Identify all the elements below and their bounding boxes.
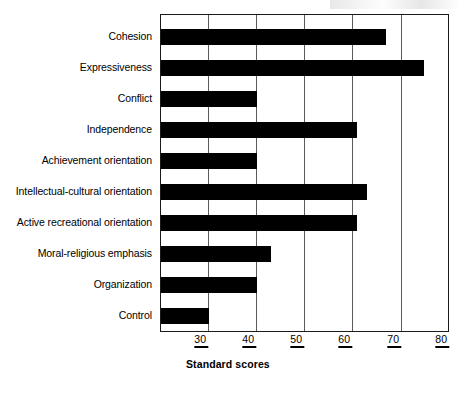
category-label: Cohesion bbox=[0, 30, 152, 42]
category-label: Organization bbox=[0, 278, 152, 290]
plot-area bbox=[160, 14, 449, 332]
bar-chart: Cohesion Expressiveness Conflict Indepen… bbox=[0, 0, 462, 394]
bar-moral-religious-emphasis bbox=[161, 246, 271, 262]
bar-independence bbox=[161, 122, 357, 138]
bar-cohesion bbox=[161, 29, 386, 45]
category-label: Moral-religious emphasis bbox=[0, 247, 152, 259]
category-axis-labels: Cohesion Expressiveness Conflict Indepen… bbox=[0, 14, 152, 332]
x-tick-label: 50 bbox=[290, 333, 304, 348]
category-label: Independence bbox=[0, 123, 152, 135]
bar-intellectual-cultural-orientation bbox=[161, 184, 367, 200]
x-tick-label: 30 bbox=[194, 333, 208, 348]
category-label: Active recreational orientation bbox=[0, 216, 152, 228]
bar-achievement-orientation bbox=[161, 153, 257, 169]
x-axis-tick-labels: 30 40 50 60 70 80 bbox=[160, 333, 452, 353]
category-label: Expressiveness bbox=[0, 61, 152, 73]
category-label: Conflict bbox=[0, 92, 152, 104]
x-tick-label: 80 bbox=[435, 333, 449, 348]
scan-artifact bbox=[330, 0, 460, 9]
bar-control bbox=[161, 308, 209, 324]
category-label: Achievement orientation bbox=[0, 154, 152, 166]
category-label: Intellectual-cultural orientation bbox=[0, 185, 152, 197]
bar-active-recreational-orientation bbox=[161, 215, 357, 231]
x-tick-label: 70 bbox=[387, 333, 401, 348]
category-label: Control bbox=[0, 309, 152, 321]
bar-expressiveness bbox=[161, 60, 424, 76]
x-tick-label: 40 bbox=[242, 333, 256, 348]
x-axis-title: Standard scores bbox=[186, 358, 270, 370]
bar-conflict bbox=[161, 91, 257, 107]
x-tick-label: 60 bbox=[338, 333, 352, 348]
bar-organization bbox=[161, 277, 257, 293]
